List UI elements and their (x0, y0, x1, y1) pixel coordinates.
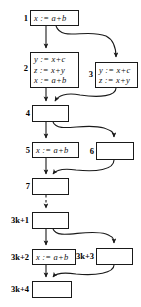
node-label-3k4: 3k+4 (2, 285, 29, 294)
statement: z := x+y (99, 75, 134, 86)
control-flow-diagram: 1 x := a+b 2 y := x+c z := x+y x := a+b … (0, 0, 141, 307)
edge-3k1-to-3k3 (53, 229, 114, 243)
node-box-6 (96, 142, 134, 160)
statement: z := x+y (34, 65, 75, 76)
node-box-3k3 (96, 248, 133, 265)
node-label-2: 2 (16, 64, 28, 73)
statement: y := x+c (99, 65, 134, 76)
statement: y := x+c (34, 54, 75, 65)
node-label-3k3: 3k+3 (75, 252, 94, 261)
statement: x := a+b (36, 252, 72, 263)
node-box-5: x := a+b (32, 142, 79, 158)
edge-6-to-7 (53, 160, 114, 174)
node-label-6: 6 (82, 147, 94, 156)
statement: x := a+b (34, 13, 75, 24)
node-box-3k1 (32, 212, 69, 229)
node-label-3: 3 (81, 70, 93, 79)
node-box-2: y := x+c z := x+y x := a+b (30, 52, 79, 88)
statement: x := a+b (36, 145, 75, 156)
node-box-3: y := x+c z := x+y (95, 62, 138, 88)
node-box-1: x := a+b (30, 10, 79, 26)
node-box-3k4 (32, 281, 72, 298)
node-box-7 (32, 178, 69, 195)
node-label-1: 1 (16, 14, 28, 23)
edge-3k3-to-3k4 (53, 265, 114, 277)
node-label-3k1: 3k+1 (2, 216, 29, 225)
node-label-4: 4 (18, 109, 30, 118)
node-label-5: 5 (18, 146, 30, 155)
edge-3-to-4 (55, 88, 116, 101)
node-label-3k2: 3k+2 (2, 253, 29, 262)
node-box-4 (32, 105, 69, 122)
edge-4-to-6 (53, 122, 114, 137)
node-label-7: 7 (18, 182, 30, 191)
node-box-3k2: x := a+b (32, 249, 76, 265)
statement: x := a+b (34, 75, 75, 86)
